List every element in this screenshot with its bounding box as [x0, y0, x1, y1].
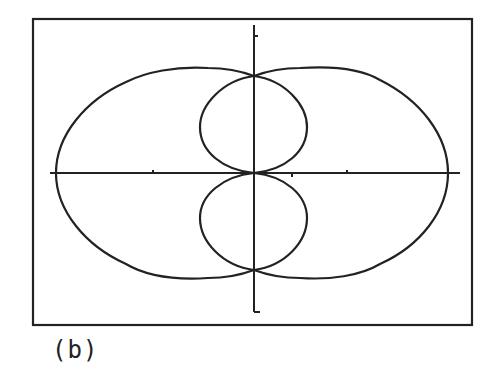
- figure-caption: (b): [52, 336, 98, 364]
- polar-plot: [0, 0, 493, 371]
